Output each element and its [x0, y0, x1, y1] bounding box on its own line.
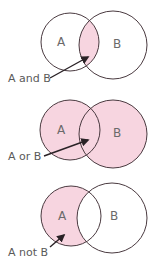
caption: A not B	[8, 246, 48, 259]
venn-diagrams: A B A and B A B A or B A B A not B	[0, 0, 157, 266]
circle-b-label: B	[113, 126, 121, 140]
circle-a-label: A	[58, 209, 67, 223]
venn-union: A B A or B	[8, 100, 147, 168]
caption: A or B	[8, 150, 41, 163]
caption: A and B	[8, 72, 51, 85]
circle-b-label: B	[110, 209, 118, 223]
circle-a-label: A	[57, 35, 66, 49]
circle-b-label: B	[113, 37, 121, 51]
venn-difference: A B A not B	[8, 183, 147, 259]
venn-intersection: A B A and B	[8, 11, 147, 85]
circle-a-label: A	[57, 123, 66, 137]
